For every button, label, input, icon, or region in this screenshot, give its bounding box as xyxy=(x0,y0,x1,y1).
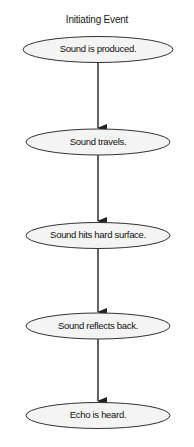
node-label-5: Echo is heard. xyxy=(22,409,174,421)
node-label-2: Sound travels. xyxy=(22,136,174,148)
flowchart-canvas xyxy=(0,0,194,447)
node-label-3: Sound hits hard surface. xyxy=(22,229,174,241)
node-label-4: Sound reflects back. xyxy=(22,320,174,332)
node-label-1: Sound is produced. xyxy=(22,43,174,55)
